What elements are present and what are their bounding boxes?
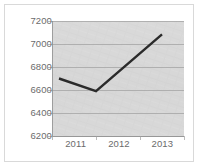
y-tick-label: 6200 (18, 131, 52, 141)
plot-area (52, 21, 184, 136)
x-tick-label: 2012 (97, 138, 140, 154)
x-tick-label: 2011 (54, 138, 97, 154)
y-tick-label: 7000 (18, 39, 52, 49)
x-axis-labels: 2011 2012 2013 (54, 138, 184, 154)
y-tick-label: 6400 (18, 108, 52, 118)
x-tick-label: 2013 (141, 138, 184, 154)
y-axis-labels: 7200 7000 6800 6600 6400 6200 (14, 0, 52, 168)
y-tick-label: 7200 (18, 16, 52, 26)
y-tick-label: 6600 (18, 85, 52, 95)
y-tick-label: 6800 (18, 62, 52, 72)
